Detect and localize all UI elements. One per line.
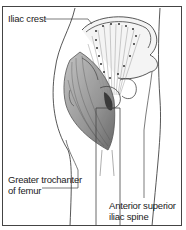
label-text-line2: iliac spine: [109, 211, 176, 222]
leader-iliac-crest: [45, 19, 92, 24]
label-text-line2: of femur: [8, 185, 82, 196]
label-greater-trochanter: Greater trochanter of femur: [8, 174, 82, 196]
label-text-line1: Anterior superior: [109, 200, 176, 211]
label-anterior-superior-iliac-spine: Anterior superior iliac spine: [109, 200, 176, 222]
label-iliac-crest: Iliac crest: [8, 13, 46, 24]
leader-anterior-superior: [144, 72, 152, 198]
label-text: Iliac crest: [8, 13, 46, 24]
label-text-line1: Greater trochanter: [8, 174, 82, 185]
